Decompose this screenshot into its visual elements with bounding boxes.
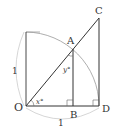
point-label-D: D [102,103,110,114]
angle-arc-x [31,100,34,106]
angle-label-x: x° [36,98,43,106]
length-label-horizontal: 1 [58,118,64,128]
point-label-A: A [66,35,75,46]
right-angle-marker-D [93,100,99,106]
point-label-C: C [95,5,103,16]
segment-OC [26,18,99,106]
angle-label-y: y° [62,66,70,74]
point-label-O: O [14,101,23,114]
geometry-diagram: O A B C D x° y° 1 1 [0,0,120,130]
right-angle-marker-B [67,100,73,106]
point-label-B: B [70,109,77,120]
angle-arc-y [68,55,73,56]
length-label-vertical: 1 [12,66,18,76]
